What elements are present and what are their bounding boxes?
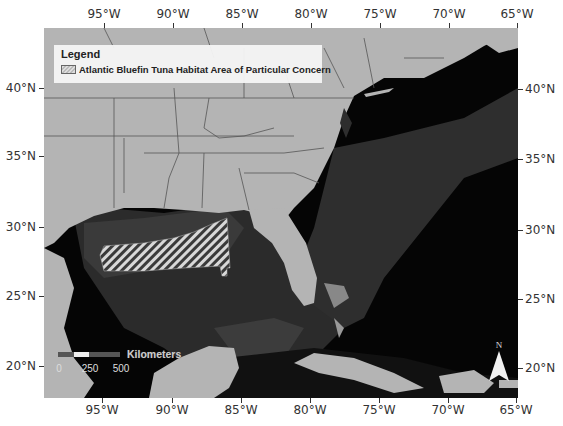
lon-label-bottom-75w: 75°W [362, 403, 395, 417]
map-legend: Legend Atlantic Bluefin Tuna Habitat Are… [54, 45, 322, 83]
scale-segment [74, 352, 89, 357]
scale-bar [58, 352, 120, 357]
tick-top-85w [242, 23, 243, 28]
lon-label-top-65w: 65°W [500, 7, 533, 21]
tick-top-65w [517, 23, 518, 28]
tick-left-35n [39, 156, 44, 157]
scale-unit-label: Kilometers [127, 348, 181, 360]
north-arrow: N [487, 340, 511, 384]
scale-label-500: 500 [113, 363, 130, 374]
tick-top-95w [104, 23, 105, 28]
lat-label-right-25n: 25°N [525, 292, 555, 306]
lon-label-top-95w: 95°W [87, 7, 120, 21]
lon-label-top-80w: 80°W [294, 7, 327, 21]
legend-item-label: Atlantic Bluefin Tuna Habitat Area of Pa… [79, 64, 331, 75]
tick-top-75w [380, 23, 381, 28]
lat-label-left-35n: 35°N [6, 149, 36, 163]
lon-label-top-70w: 70°W [432, 7, 465, 21]
scale-label-250: 250 [82, 363, 99, 374]
map-canvas[interactable] [44, 28, 518, 398]
tick-top-80w [311, 23, 312, 28]
tick-right-40n [518, 89, 523, 90]
lon-label-bottom-85w: 85°W [224, 403, 257, 417]
lat-label-left-40n: 40°N [6, 81, 36, 95]
lat-label-right-40n: 40°N [525, 82, 555, 96]
tick-top-90w [173, 23, 174, 28]
scale-segment [58, 352, 74, 357]
legend-item-hapc: Atlantic Bluefin Tuna Habitat Area of Pa… [61, 64, 331, 75]
lon-label-bottom-65w: 65°W [499, 403, 532, 417]
tick-top-70w [449, 23, 450, 28]
tick-right-25n [518, 299, 523, 300]
scale-segment [89, 352, 120, 357]
tick-left-40n [39, 88, 44, 89]
lon-label-bottom-70w: 70°W [431, 403, 464, 417]
tick-left-30n [39, 227, 44, 228]
lon-label-bottom-95w: 95°W [85, 403, 118, 417]
tick-left-25n [39, 296, 44, 297]
lat-label-left-25n: 25°N [6, 289, 36, 303]
lon-label-top-75w: 75°W [363, 7, 396, 21]
tick-left-20n [39, 366, 44, 367]
lon-label-bottom-80w: 80°W [293, 403, 326, 417]
lon-label-top-90w: 90°W [156, 7, 189, 21]
north-arrow-icon [487, 351, 511, 383]
lon-label-top-85w: 85°W [225, 7, 258, 21]
tick-right-20n [518, 368, 523, 369]
lat-label-right-20n: 20°N [525, 361, 555, 375]
lat-label-left-30n: 30°N [6, 220, 36, 234]
lat-label-left-20n: 20°N [6, 359, 36, 373]
lon-label-bottom-90w: 90°W [155, 403, 188, 417]
tick-right-35n [518, 159, 523, 160]
tick-right-30n [518, 230, 523, 231]
lat-label-right-35n: 35°N [525, 152, 555, 166]
north-label: N [487, 340, 511, 350]
legend-title: Legend [61, 48, 100, 60]
lat-label-right-30n: 30°N [525, 223, 555, 237]
hatch-swatch-icon [61, 65, 76, 74]
scale-label-0: 0 [56, 363, 62, 374]
map-graphic [44, 28, 518, 398]
